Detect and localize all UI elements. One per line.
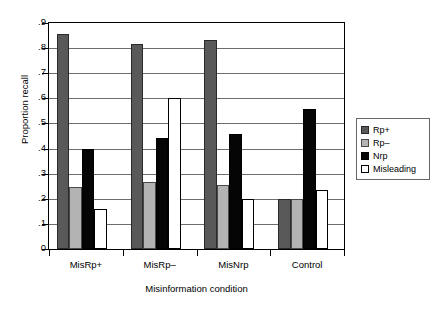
legend-item-label: Rp– xyxy=(373,138,390,148)
bar xyxy=(94,209,107,249)
y-axis-tick-label: .9 xyxy=(2,17,46,27)
white-swatch xyxy=(361,165,369,173)
legend-item-label: Misleading xyxy=(373,164,416,174)
legend-item: Nrp xyxy=(361,149,425,162)
x-axis-tick xyxy=(49,250,50,256)
legend-item-label: Rp+ xyxy=(373,125,390,135)
y-axis-tick-label: 0 xyxy=(2,243,46,253)
x-axis-category-label: Control xyxy=(262,259,352,270)
dark-gray-swatch xyxy=(361,126,369,134)
bar xyxy=(69,187,82,249)
bar xyxy=(303,109,316,249)
bar xyxy=(204,40,217,249)
black-swatch xyxy=(361,152,369,160)
bar xyxy=(291,199,304,249)
bar xyxy=(316,190,329,249)
bar xyxy=(229,134,242,249)
legend-item: Rp+ xyxy=(361,123,425,136)
x-axis-title: Misinformation condition xyxy=(48,283,345,294)
y-axis-tick-label: .8 xyxy=(2,42,46,52)
bar xyxy=(242,199,255,249)
bars-layer xyxy=(49,23,344,249)
y-axis-title: Proportion recall xyxy=(19,40,30,180)
y-axis-tick-label: .6 xyxy=(2,92,46,102)
x-axis-tick xyxy=(123,250,124,256)
bar xyxy=(82,149,95,249)
x-axis-tick xyxy=(344,250,345,256)
bar xyxy=(217,185,230,249)
light-gray-swatch xyxy=(361,139,369,147)
y-axis-tick-label: .3 xyxy=(2,168,46,178)
x-axis-tick xyxy=(270,250,271,256)
bar xyxy=(143,182,156,249)
bar xyxy=(57,34,70,249)
y-axis-tick-label: .5 xyxy=(2,117,46,127)
legend-item: Misleading xyxy=(361,162,425,175)
legend-item: Rp– xyxy=(361,136,425,149)
bar xyxy=(278,199,291,249)
y-axis-tick-label: .2 xyxy=(2,193,46,203)
chart-legend: Rp+Rp–NrpMisleading xyxy=(356,118,430,180)
legend-item-label: Nrp xyxy=(373,151,388,161)
bar xyxy=(168,98,181,249)
bar xyxy=(131,44,144,249)
y-axis-tick-label: .4 xyxy=(2,143,46,153)
bar xyxy=(156,138,169,249)
bar-chart: Proportion recall 0.1.2.3.4.5.6.7.8.9 Mi… xyxy=(0,0,435,310)
y-axis-tick-label: .1 xyxy=(2,218,46,228)
x-axis-tick xyxy=(197,250,198,256)
y-axis-tick-label: .7 xyxy=(2,67,46,77)
